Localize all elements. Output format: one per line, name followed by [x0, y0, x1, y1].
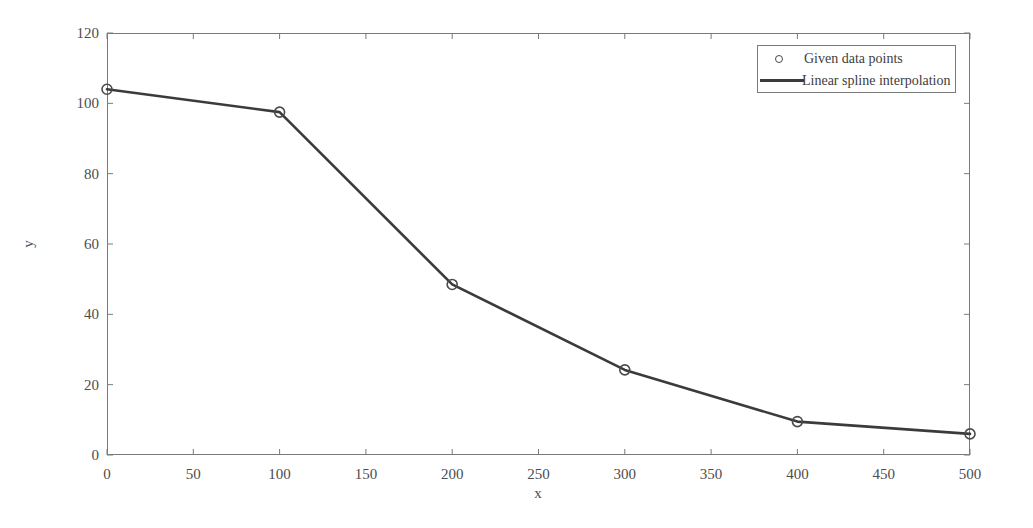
circle-marker-icon [775, 55, 783, 63]
legend-line-sample-wrap [758, 70, 804, 92]
x-tick-label: 400 [786, 467, 809, 482]
x-tick-label: 300 [614, 467, 637, 482]
y-axis-ticks [107, 33, 970, 455]
x-tick-label: 500 [959, 467, 982, 482]
y-axis-title: y [21, 240, 36, 248]
x-tick-label: 0 [103, 467, 111, 482]
y-tick-label: 40 [84, 307, 99, 322]
x-axis-ticks [107, 33, 970, 455]
y-tick-label: 0 [92, 448, 100, 463]
legend-entry-linear-spline: Linear spline interpolation [758, 69, 955, 92]
x-axis-title: x [534, 486, 542, 501]
legend-box: Given data points Linear spline interpol… [757, 45, 956, 93]
legend-label-line: Linear spline interpolation [802, 74, 951, 88]
x-tick-label: 150 [355, 467, 378, 482]
legend-entry-given-data-points: Given data points [758, 47, 955, 70]
figure-canvas: 050100150200250300350400450500 020406080… [0, 0, 1033, 528]
line-sample-icon [760, 79, 804, 82]
legend-marker-sample [758, 48, 804, 70]
x-tick-label: 200 [441, 467, 464, 482]
data-line-linear-spline [107, 89, 970, 434]
data-point-markers [102, 84, 975, 439]
y-tick-label: 80 [84, 166, 99, 181]
x-tick-label: 250 [527, 467, 550, 482]
x-tick-label: 50 [186, 467, 201, 482]
y-tick-label: 100 [77, 96, 100, 111]
x-tick-label: 450 [872, 467, 895, 482]
x-tick-label: 100 [268, 467, 291, 482]
y-tick-label: 20 [84, 377, 99, 392]
legend-label-points: Given data points [804, 52, 903, 66]
y-tick-label: 120 [77, 26, 100, 41]
x-tick-label: 350 [700, 467, 723, 482]
y-tick-label: 60 [84, 237, 99, 252]
